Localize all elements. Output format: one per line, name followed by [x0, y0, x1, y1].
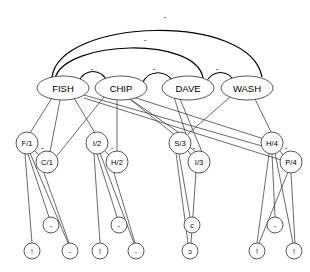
sign-arc-long-inner: - — [144, 35, 147, 44]
long-arc-layer — [52, 30, 262, 78]
arc-fish-dave — [55, 48, 203, 78]
sign-f1-c1: - — [41, 143, 44, 152]
edge-fish-i2 — [74, 98, 95, 133]
node-h4[interactable]: H/4 — [261, 132, 283, 154]
node-label-l9: ! — [256, 248, 258, 255]
sign-arc-long-outer: - — [164, 12, 167, 21]
node-l3[interactable]: - — [62, 243, 78, 259]
node-label-i3: I/3 — [195, 158, 203, 167]
node-label-f1: F/1 — [22, 139, 33, 148]
edge-p4-l11 — [291, 173, 295, 243]
edge-i2-l4 — [94, 154, 100, 243]
node-c1[interactable]: C/1 — [36, 151, 58, 173]
node-label-h2: H/2 — [111, 158, 123, 167]
node-l11[interactable]: ! — [286, 243, 302, 259]
edge-h4-l9 — [257, 154, 269, 243]
sign-i2-h2: - — [111, 143, 114, 152]
node-f1[interactable]: F/1 — [16, 132, 38, 154]
node-label-chip: CHIP — [110, 83, 133, 94]
arc-fish-wash — [52, 30, 262, 77]
node-label-l7: c — [190, 222, 194, 229]
node-l6[interactable]: - — [128, 243, 144, 259]
edge-f1-l1 — [25, 154, 32, 243]
edge-chip-h4 — [133, 97, 264, 139]
node-label-p4: P/4 — [285, 158, 296, 167]
node-label-l1: ! — [31, 248, 33, 255]
node-chip[interactable]: CHIP — [95, 76, 147, 100]
sign-arc-dave-wash: - — [216, 64, 219, 73]
node-label-l8: ɔ — [188, 248, 192, 255]
node-dave[interactable]: DAVE — [162, 76, 214, 100]
edge-fish-f1 — [30, 98, 52, 133]
node-l2[interactable]: - — [43, 217, 59, 233]
node-label-fish: FISH — [52, 83, 74, 94]
node-p4[interactable]: P/4 — [280, 151, 302, 173]
node-i3[interactable]: I/3 — [188, 151, 210, 173]
node-s3[interactable]: S/3 — [169, 132, 191, 154]
node-wash[interactable]: WASH — [221, 76, 273, 100]
node-label-wash: WASH — [233, 83, 261, 94]
node-fish[interactable]: FISH — [37, 76, 89, 100]
node-label-l4: ! — [99, 248, 101, 255]
node-label-l11: ! — [293, 248, 295, 255]
node-l1[interactable]: ! — [24, 243, 40, 259]
sign-s3-i3: - — [193, 143, 196, 152]
node-h2[interactable]: H/2 — [106, 151, 128, 173]
graph-svg: FISHCHIPDAVEWASHF/1C/1I/2H/2S/3I/3H/4P/4… — [0, 0, 310, 272]
node-l7[interactable]: c — [184, 217, 200, 233]
node-i2[interactable]: I/2 — [86, 132, 108, 154]
node-label-s3: S/3 — [174, 139, 185, 148]
diagram-canvas: FISHCHIPDAVEWASHF/1C/1I/2H/2S/3I/3H/4P/4… — [0, 0, 310, 272]
node-l9[interactable]: ! — [249, 243, 265, 259]
node-l10[interactable]: - — [267, 217, 283, 233]
sign-arc-fish-chip: - — [91, 64, 94, 73]
node-label-h4: H/4 — [266, 139, 278, 148]
edge-fish-c1 — [50, 100, 60, 152]
node-label-dave: DAVE — [175, 83, 200, 94]
sign-arc-chip-dave: - — [153, 64, 156, 73]
edge-wash-h4 — [255, 99, 271, 132]
node-l8[interactable]: ɔ — [182, 243, 198, 259]
sign-h4-p4: - — [285, 143, 288, 152]
node-l4[interactable]: ! — [92, 243, 108, 259]
node-layer: FISHCHIPDAVEWASHF/1C/1I/2H/2S/3I/3H/4P/4… — [16, 76, 302, 259]
edge-wash-s3 — [188, 97, 230, 134]
node-l5[interactable]: - — [111, 217, 127, 233]
node-label-i2: I/2 — [93, 139, 101, 148]
node-label-c1: C/1 — [41, 158, 53, 167]
edge-layer — [25, 95, 295, 243]
